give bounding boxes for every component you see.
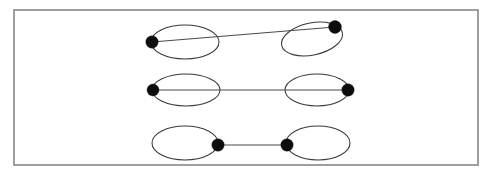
vertex-top-right [329,21,342,34]
diagram-canvas [0,0,495,176]
figure-border [14,10,478,165]
vertex-top-left [146,36,158,48]
vertex-middle-right [342,84,354,96]
vertex-bottom-right [281,139,293,151]
vertex-middle-left [147,84,159,96]
figure-root [0,0,495,176]
vertex-bottom-left [212,139,224,151]
